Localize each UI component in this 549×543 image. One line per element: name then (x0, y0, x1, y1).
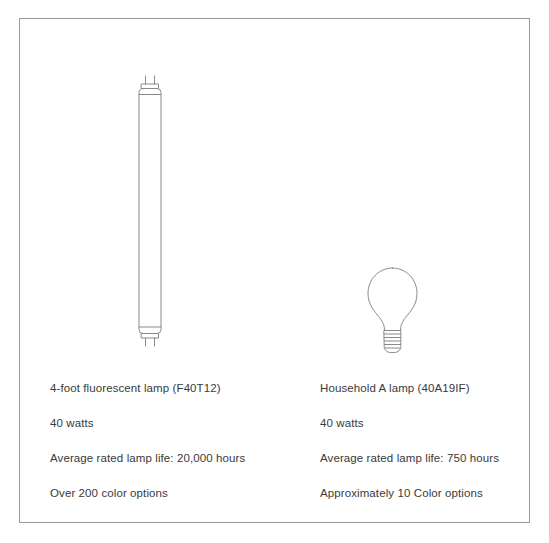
figure-border: 4-foot fluorescent lamp (F40T12) 40 watt… (19, 18, 530, 523)
spec-line-name: 4-foot fluorescent lamp (F40T12) (50, 381, 305, 395)
spec-line-lamp-life: Average rated lamp life: 750 hours (320, 451, 549, 465)
fluorescent-tube-icon (110, 63, 190, 363)
spec-line-wattage: 40 watts (50, 416, 305, 430)
spec-line-wattage: 40 watts (320, 416, 549, 430)
spec-line-lamp-life: Average rated lamp life: 20,000 hours (50, 451, 305, 465)
lamp-comparison-figure: 4-foot fluorescent lamp (F40T12) 40 watt… (0, 0, 549, 543)
fluorescent-tube-illustration (110, 63, 190, 363)
light-bulb-icon (345, 251, 440, 363)
household-a-lamp-illustration (345, 251, 440, 363)
spec-column-fluorescent: 4-foot fluorescent lamp (F40T12) 40 watt… (50, 381, 305, 500)
spec-line-name: Household A lamp (40A19IF) (320, 381, 549, 395)
spec-column-incandescent: Household A lamp (40A19IF) 40 watts Aver… (320, 381, 549, 500)
spec-line-color-options: Over 200 color options (50, 486, 305, 500)
spec-line-color-options: Approximately 10 Color options (320, 486, 549, 500)
